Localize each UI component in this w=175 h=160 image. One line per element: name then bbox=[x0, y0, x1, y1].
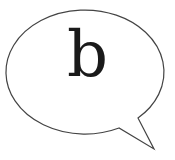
bubble-letter: b bbox=[0, 22, 175, 86]
